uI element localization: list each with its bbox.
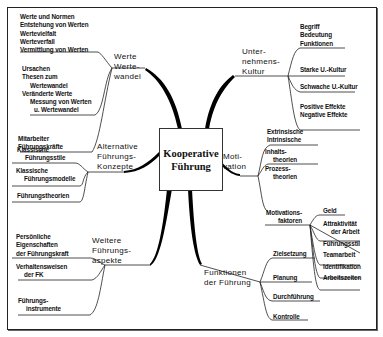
label-line: Führungs- <box>92 246 131 256</box>
node-item: Thesen zum <box>22 73 91 81</box>
label-line: aspekte <box>92 256 131 266</box>
node-item: Bedeutung <box>300 31 333 39</box>
werte-group-1: Werte und Normen Entstehung von Werten W… <box>20 13 88 54</box>
node-item: Veränderte Werte <box>22 90 91 98</box>
label-line: Motivations- <box>266 209 302 217</box>
node-item: der FK <box>16 271 67 279</box>
branch-motivation-label: Moti- vation <box>223 152 246 172</box>
node-item: Führungsstile <box>17 154 65 162</box>
node-item: Führungsmodelle <box>16 175 75 183</box>
node-item: Klassische <box>16 167 75 175</box>
label-line: wandel <box>114 72 141 82</box>
node-item: der Arbeit <box>323 227 361 237</box>
node-item: Eigenschaften <box>16 241 69 249</box>
node-item: Negative Effekte <box>300 111 347 119</box>
node-item: Führungstheorien <box>17 192 69 200</box>
kultur-group-1: Begriff Bedeutung Funktionen <box>300 23 333 48</box>
branch-weitere-label: Weitere Führungs- aspekte <box>92 236 131 266</box>
node-item: Entstehung von Werten <box>20 21 88 29</box>
label-line: der Führung <box>204 278 251 288</box>
label-line: Funktionen <box>204 268 251 278</box>
central-topic: KooperativeFührung <box>159 128 223 191</box>
label-line: nehmens- <box>242 57 280 67</box>
kultur-group-2: Starke U.-Kultur <box>300 66 346 74</box>
node-item: Teamarbeit <box>323 250 361 260</box>
node-item: Werteverfall <box>20 38 88 46</box>
alternative-group-3: Führungstheorien <box>17 192 69 200</box>
branch-funktionen-label: Funktionen der Führung <box>204 268 251 288</box>
node-item: Führungs- <box>18 297 61 305</box>
branch-alternative-label: Alternative Führungs- Konzepte <box>97 142 138 172</box>
node-item: Intrinsische <box>267 136 303 144</box>
label-line: Unter- <box>242 47 280 57</box>
motivation-group-1: Extrinsische Intrinsische <box>267 128 303 145</box>
node-item: Klassische <box>17 146 65 154</box>
alternative-group-2: Klassische Führungsmodelle <box>16 167 75 184</box>
node-item: Extrinsische <box>267 128 303 136</box>
funktionen-item-1: Zielsetzung <box>273 250 307 258</box>
label-line: Werte- <box>114 62 141 72</box>
werte-group-2: Ursachen Thesen zum Wertewandel Veränder… <box>22 65 91 115</box>
node-item: Führungsstil <box>323 239 361 249</box>
motivation-group-2: Inhalts- theorien Prozess- theorien <box>265 148 297 181</box>
node-item: Begriff <box>300 23 333 31</box>
label-line: Weitere <box>92 236 131 246</box>
center-line-1: Kooperative <box>163 148 218 159</box>
label-line: Werte <box>114 52 141 62</box>
node-item: Wertewandel <box>22 82 91 90</box>
node-item: Inhalts- <box>265 148 297 156</box>
node-item: u. Wertewandel <box>22 106 91 114</box>
label-line: Alternative <box>97 142 138 152</box>
node-item: Wertevielfalt <box>20 30 88 38</box>
label-line: Kultur <box>242 67 280 77</box>
node-item: Positive Effekte <box>300 103 347 111</box>
weitere-group-3: Führungs- instrumente <box>18 297 61 314</box>
node-item: Funktionen <box>300 40 333 48</box>
node-item: Verhaltensweisen <box>16 263 67 271</box>
kultur-group-3: Schwache U.-Kultur <box>300 83 358 91</box>
motivationsfaktoren-label: Motivations- faktoren <box>266 209 302 226</box>
node-item: Arbeitszeiten <box>323 273 361 283</box>
node-item: Mitarbeiter <box>18 135 63 143</box>
weitere-group-1: Persönliche Eigenschaften der Führungskr… <box>16 233 69 258</box>
funktionen-item-3: Durchführung <box>273 293 314 301</box>
label-line: Moti- <box>223 152 246 162</box>
branch-werte-label: Werte Werte- wandel <box>114 52 141 82</box>
alternative-group-1: Klassische Führungsstile <box>17 146 65 163</box>
node-item: Prozess- <box>265 165 297 173</box>
center-line-2: Führung <box>171 161 211 172</box>
funktionen-item-4: Kontrolle <box>273 313 300 321</box>
node-item: instrumente <box>18 305 61 313</box>
label-line: Konzepte <box>97 162 138 172</box>
weitere-group-2: Verhaltensweisen der FK <box>16 263 67 280</box>
funktionen-item-2: Planung <box>273 274 297 282</box>
node-item: theorien <box>265 156 297 164</box>
node-item: Messung von Werten <box>22 98 91 106</box>
node-item: Geld <box>323 206 361 216</box>
node-item: Identifikation <box>323 262 361 272</box>
node-item: Persönliche <box>16 233 69 241</box>
motivationsfaktoren-items: Geld Attraktivität der Arbeit Führungsst… <box>323 206 361 283</box>
kultur-group-4: Positive Effekte Negative Effekte <box>300 103 347 120</box>
label-line: faktoren <box>266 217 302 225</box>
node-item: theorien <box>265 173 297 181</box>
label-line: Führungs- <box>97 152 138 162</box>
label-line: vation <box>223 162 246 172</box>
node-item: Ursachen <box>22 65 91 73</box>
node-item: der Führungskraft <box>16 250 69 258</box>
node-item: Schwache U.-Kultur <box>300 83 358 91</box>
node-item: Vermittlung von Werten <box>20 46 88 54</box>
node-item: Starke U.-Kultur <box>300 66 346 74</box>
node-item: Werte und Normen <box>20 13 88 21</box>
branch-kultur-label: Unter- nehmens- Kultur <box>242 47 280 77</box>
